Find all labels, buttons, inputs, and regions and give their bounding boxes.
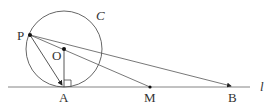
diagram-canvas: P O A M B C l: [0, 0, 272, 106]
right-angle-icon: [64, 80, 71, 87]
label-l: l: [260, 79, 264, 94]
label-a: A: [59, 90, 69, 105]
geometry-diagram: P O A M B C l: [0, 0, 272, 106]
point-p: [28, 33, 32, 37]
label-p: P: [17, 28, 24, 43]
label-c: C: [96, 8, 105, 23]
point-m: [148, 85, 151, 88]
label-b: B: [228, 90, 237, 105]
point-o: [62, 47, 66, 51]
label-m: M: [144, 90, 156, 105]
label-o: O: [52, 48, 61, 63]
